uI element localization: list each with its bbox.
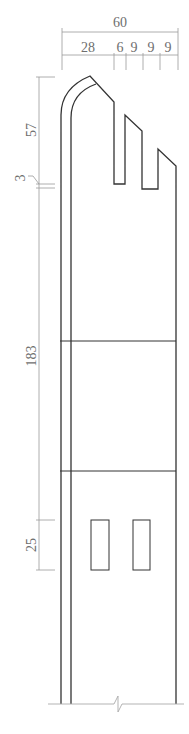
dim-183: 183 [24,346,39,367]
dim-57: 57 [24,123,39,137]
left-dimension: 57 3 183 25 [13,77,55,570]
window-right [133,520,150,570]
break-line [48,696,184,712]
dim-9c: 9 [165,40,172,55]
elevation-drawing: 60 28 6 9 9 9 57 3 183 25 [0,0,189,734]
top-dimension-segments: 28 6 9 9 9 [62,40,178,70]
dim-28: 28 [81,40,95,55]
tower-outline [60,76,176,704]
dim-25: 25 [24,538,39,552]
dim-60: 60 [113,15,127,30]
dim-3: 3 [13,175,28,182]
window-left [91,520,109,570]
dim-9a: 9 [131,40,138,55]
dim-9b: 9 [148,40,155,55]
dim-6: 6 [117,40,124,55]
